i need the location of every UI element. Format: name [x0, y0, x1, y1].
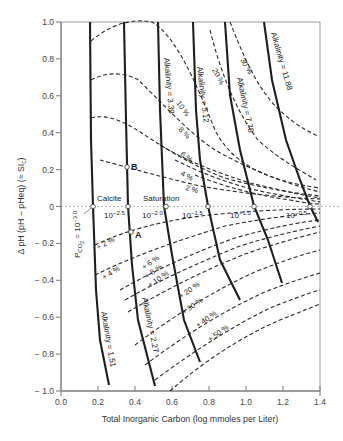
y-tick-label: − 0.6: [35, 312, 54, 322]
percent-label-plus-40: + 40 %: [194, 309, 219, 330]
x-axis-label: Total Inorganic Carbon (log mmoles per L…: [102, 414, 279, 424]
svg-text:PCO2 = 10−3.0: PCO2 = 10−3.0: [72, 210, 85, 258]
y-tick-label: 0.8: [42, 54, 54, 64]
percent-label-10: 10 %: [174, 99, 191, 118]
y-tick-label: − 0.4: [35, 275, 54, 285]
x-tick-label: 0.0: [55, 397, 67, 407]
x-tick-label: 1.4: [314, 397, 326, 407]
x-tick-labels: 0.0 0.2 0.4 0.6 0.8 1.0 1.2 1.4: [55, 397, 326, 407]
y-ticks: [56, 22, 61, 391]
point-a-label: A: [135, 230, 142, 240]
y-tick-labels: 1.0 0.8 0.6 0.4 0.2 0 − 0.2 − 0.4 − 0.6 …: [35, 17, 54, 396]
percent-label-20: 20 %: [210, 67, 226, 87]
point-b-label: B: [131, 162, 138, 172]
y-tick-label: 0.6: [42, 91, 54, 101]
percent-label-plus-50: + 50 %: [206, 323, 231, 344]
y-tick-label: − 0.2: [35, 238, 54, 248]
x-tick-label: 0.4: [129, 397, 141, 407]
saturation-label: Saturation: [143, 194, 179, 203]
alkalinity-1.51-label: Alkalinity = 1.51: [99, 311, 118, 369]
percent-label-4: 4 %: [179, 169, 195, 183]
percent-label-plus-4: + 4 %: [100, 264, 121, 282]
pco2-label-2.5: 10−2.5: [104, 210, 125, 220]
calcite-label: Calcite: [97, 194, 122, 203]
pco2-pointer: [84, 208, 91, 214]
pco2-label-0.5: 10−0.5: [286, 210, 307, 220]
y-tick-label: 0.2: [42, 165, 54, 175]
percent-label-8: 8 %: [177, 125, 193, 141]
y-tick-label: 1.0: [42, 17, 54, 27]
x-tick-label: 0.6: [166, 397, 178, 407]
alkalinity-7.78-line: [225, 22, 282, 283]
alkalinity-5.12-line: [193, 22, 240, 300]
y-tick-label: − 1.0: [35, 386, 54, 396]
percent-curves-below: [95, 209, 320, 391]
y-tick-label: 0: [49, 202, 54, 212]
y-axis-label: Δ pH (pH − pHeq) (≈ SIc): [16, 158, 27, 255]
alkalinity-2.27-label: Alkalinity = 2.27: [140, 297, 161, 354]
chart: 1.0 0.8 0.6 0.4 0.2 0 − 0.2 − 0.4 − 0.6 …: [0, 0, 343, 441]
pco2-label-1.0: 10−1.0: [230, 210, 251, 220]
y-tick-label: 0.4: [42, 128, 54, 138]
point-b: [125, 165, 130, 170]
alkalinity-7.78-label: Alkalinity = 7.78: [235, 77, 256, 134]
percent-label-plus-2: + 2 %: [95, 235, 117, 252]
saturation-points: [91, 165, 313, 235]
pco2-label-1.5: 10−1.5: [182, 210, 203, 220]
x-tick-label: 1.2: [277, 397, 289, 407]
y-tick-label: − 0.8: [35, 349, 54, 359]
x-tick-label: 0.2: [92, 397, 104, 407]
x-tick-label: 1.0: [240, 397, 252, 407]
percent-label-2: 2 %: [184, 183, 199, 195]
pco2-label-2.0: 10−2.0: [142, 210, 163, 220]
point-a: [129, 230, 134, 235]
pco2-main-label: PCO2 = 10−3.0: [72, 210, 85, 258]
x-tick-label: 0.8: [203, 397, 215, 407]
